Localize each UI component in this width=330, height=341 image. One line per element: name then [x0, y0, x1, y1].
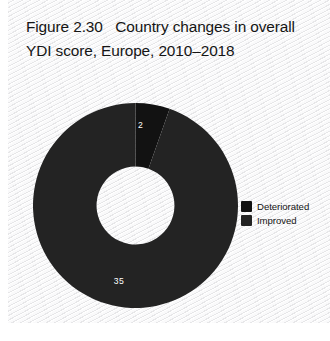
donut-chart-svg: 235	[33, 103, 238, 308]
donut-chart: 235	[33, 103, 238, 308]
legend-item-improved[interactable]: Improved	[241, 215, 309, 226]
donut-slice-group	[33, 103, 238, 308]
chart-legend: DeterioratedImproved	[241, 201, 309, 226]
square-swatch-icon	[241, 201, 252, 212]
legend-item-label: Improved	[257, 215, 297, 226]
donut-slice-value-improved: 35	[114, 276, 124, 286]
legend-item-label: Deteriorated	[257, 201, 309, 212]
donut-slice-value-deteriorated: 2	[138, 120, 143, 130]
figure-title: Figure 2.30 Country changes in overall Y…	[26, 15, 312, 62]
legend-item-deteriorated[interactable]: Deteriorated	[241, 201, 309, 212]
square-swatch-icon	[241, 215, 252, 226]
figure-page: Figure 2.30 Country changes in overall Y…	[0, 0, 330, 341]
donut-slice-improved	[33, 103, 238, 308]
